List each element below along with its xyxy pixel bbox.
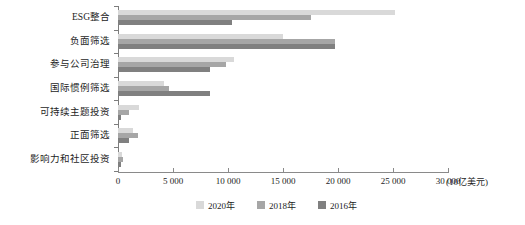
x-axis-tick-label: 25 000	[381, 176, 406, 186]
y-axis-tick	[114, 30, 118, 31]
bar	[118, 91, 210, 96]
bar	[118, 20, 232, 25]
x-axis-tick	[338, 168, 339, 173]
y-axis-tick	[114, 124, 118, 125]
chart-legend: 2020年2018年2016年	[196, 198, 357, 212]
legend-label: 2016年	[330, 199, 357, 212]
category-label: 正面筛选	[70, 130, 110, 141]
x-axis-tick-label: 10 000	[216, 176, 241, 186]
category-label: ESG整合	[72, 12, 110, 23]
legend-item[interactable]: 2016年	[318, 199, 357, 212]
x-axis-tick-label: 30 000	[436, 176, 461, 186]
category-label: 参与公司治理	[50, 59, 110, 70]
bar	[118, 115, 121, 120]
y-axis-tick	[114, 147, 118, 148]
y-axis-tick	[114, 6, 118, 7]
x-axis-tick	[283, 168, 284, 173]
x-axis-tick	[393, 168, 394, 173]
esg-strategies-bar-chart: ESG整合负面筛选参与公司治理国际惯例筛选可持续主题投资正面筛选影响力和社区投资…	[0, 0, 525, 225]
bar	[118, 138, 129, 143]
x-axis-tick-label: 0	[116, 176, 121, 186]
y-axis-tick	[114, 77, 118, 78]
x-axis-tick-label: 15 000	[271, 176, 296, 186]
x-axis-tick	[228, 168, 229, 173]
legend-label: 2018年	[269, 199, 296, 212]
category-label: 负面筛选	[70, 36, 110, 47]
y-axis-tick	[114, 100, 118, 101]
x-axis-tick	[448, 168, 449, 173]
category-label: 影响力和社区投资	[30, 154, 110, 165]
x-axis-tick	[173, 168, 174, 173]
y-axis-tick	[114, 53, 118, 54]
x-axis-tick-label: 20 000	[326, 176, 351, 186]
legend-swatch-icon	[257, 201, 265, 209]
legend-swatch-icon	[196, 201, 204, 209]
category-axis-labels: ESG整合负面筛选参与公司治理国际惯例筛选可持续主题投资正面筛选影响力和社区投资	[0, 6, 114, 171]
category-label: 国际惯例筛选	[50, 83, 110, 94]
legend-label: 2020年	[208, 199, 235, 212]
plot-area	[118, 6, 448, 171]
category-label: 可持续主题投资	[40, 107, 110, 118]
bar	[118, 44, 335, 49]
legend-item[interactable]: 2018年	[257, 199, 296, 212]
x-axis-tick-label: 5 000	[163, 176, 183, 186]
legend-swatch-icon	[318, 201, 326, 209]
bar	[118, 67, 210, 72]
legend-item[interactable]: 2020年	[196, 199, 235, 212]
bar	[118, 162, 121, 167]
x-axis-tick	[118, 168, 119, 173]
